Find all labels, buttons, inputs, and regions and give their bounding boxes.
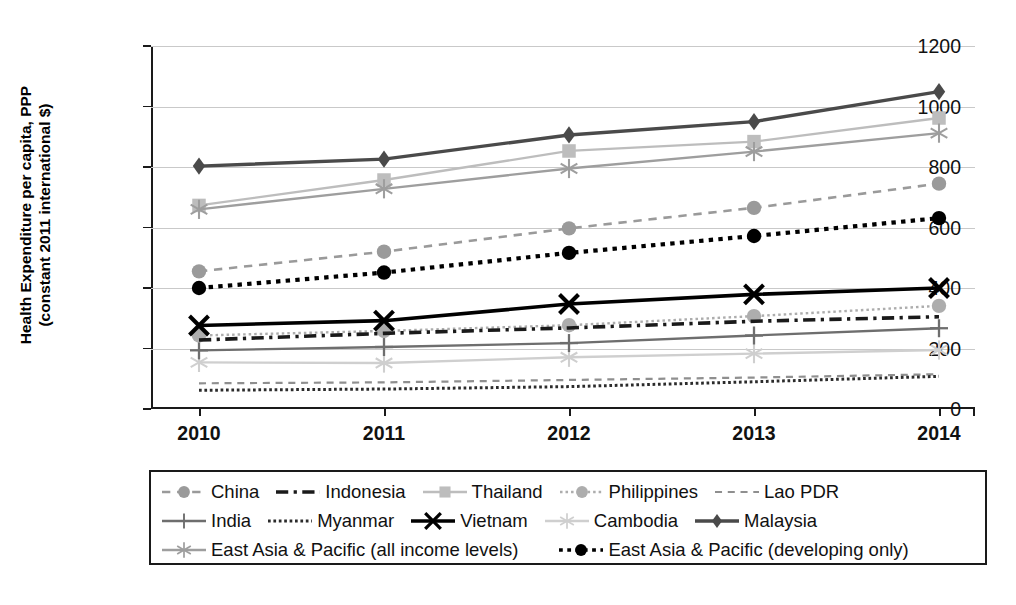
legend-row: IndiaMyanmarVietnamCambodiaMalaysia	[151, 506, 985, 535]
legend-label: Lao PDR	[764, 481, 839, 503]
y-tick-mark	[143, 348, 151, 350]
series-line-lao_pdr	[199, 374, 939, 383]
legend-symbol-china	[161, 482, 207, 502]
legend-label: Cambodia	[594, 510, 678, 532]
data-point-marker	[747, 229, 761, 243]
chart-page: Health Expenditure per capita, PPP (cons…	[0, 0, 1016, 605]
legend-symbol-eap_all	[161, 540, 207, 560]
y-tick-mark	[143, 166, 151, 168]
data-point-marker	[930, 319, 948, 337]
legend-symbol-malaysia	[694, 511, 740, 531]
legend-symbol-lao_pdr	[714, 482, 760, 502]
x-tick-label: 2010	[177, 422, 220, 445]
data-point-marker	[932, 211, 946, 225]
y-axis-title: Health Expenditure per capita, PPP (cons…	[0, 0, 70, 430]
legend-symbol-myanmar	[267, 511, 313, 531]
data-point-marker	[178, 486, 190, 498]
legend-symbol-cambodia	[544, 511, 590, 531]
legend-item-eap_all[interactable]: East Asia & Pacific (all income levels)	[161, 539, 518, 561]
legend-label: Indonesia	[325, 481, 405, 503]
legend-symbol-indonesia	[275, 482, 321, 502]
data-point-marker	[562, 246, 576, 260]
legend-symbol-philippines	[559, 482, 605, 502]
series-line-myanmar	[199, 376, 939, 390]
data-point-marker	[378, 151, 390, 168]
data-point-marker	[576, 486, 588, 498]
y-tick-mark	[143, 45, 151, 47]
data-point-marker	[712, 513, 722, 527]
legend-symbol-india	[161, 511, 207, 531]
data-point-marker	[562, 318, 576, 332]
data-point-marker	[932, 111, 946, 125]
data-point-marker	[748, 113, 760, 130]
data-point-marker	[192, 264, 206, 278]
legend-label: China	[211, 481, 259, 503]
legend-row: East Asia & Pacific (all income levels)E…	[151, 535, 985, 564]
legend-item-china[interactable]: China	[161, 481, 259, 503]
data-point-marker	[377, 265, 391, 279]
legend-symbol-eap_dev	[558, 540, 604, 560]
y-tick-mark	[143, 408, 151, 410]
legend-item-indonesia[interactable]: Indonesia	[275, 481, 405, 503]
x-tick-label: 2011	[363, 422, 405, 445]
data-point-marker	[745, 326, 763, 344]
data-point-marker	[177, 513, 192, 528]
data-point-marker	[439, 486, 450, 497]
data-point-marker	[576, 544, 588, 556]
legend-item-eap_dev[interactable]: East Asia & Pacific (developing only)	[558, 539, 908, 561]
data-point-marker	[562, 144, 576, 158]
data-point-marker	[560, 334, 578, 352]
legend-label: East Asia & Pacific (all income levels)	[211, 539, 518, 561]
legend-row: ChinaIndonesiaThailandPhilippinesLao PDR	[151, 477, 985, 506]
legend-symbol-vietnam	[410, 511, 456, 531]
data-point-marker	[933, 83, 945, 100]
legend-label: Myanmar	[317, 510, 394, 532]
data-point-marker	[747, 201, 761, 215]
x-tick-label: 2013	[732, 422, 775, 445]
y-axis-title-line2: (constant 2011 international $)	[35, 86, 54, 344]
legend-label: Malaysia	[744, 510, 817, 532]
legend-item-myanmar[interactable]: Myanmar	[267, 510, 394, 532]
data-point-marker	[932, 299, 946, 313]
chart-legend: ChinaIndonesiaThailandPhilippinesLao PDR…	[149, 470, 987, 565]
legend-item-thailand[interactable]: Thailand	[422, 481, 543, 503]
legend-item-cambodia[interactable]: Cambodia	[544, 510, 678, 532]
data-point-marker	[193, 157, 205, 174]
data-point-marker	[375, 338, 393, 356]
legend-item-malaysia[interactable]: Malaysia	[694, 510, 817, 532]
y-tick-mark	[143, 106, 151, 108]
legend-label: India	[211, 510, 251, 532]
legend-item-india[interactable]: India	[161, 510, 251, 532]
legend-label: Philippines	[609, 481, 698, 503]
legend-symbol-thailand	[422, 482, 468, 502]
data-point-marker	[192, 281, 206, 295]
y-tick-mark	[143, 227, 151, 229]
legend-item-philippines[interactable]: Philippines	[559, 481, 698, 503]
data-point-marker	[932, 176, 946, 190]
plot-area: 020040060080010001200 201020112012201320…	[151, 46, 975, 409]
legend-label: Thailand	[472, 481, 543, 503]
y-axis-title-line1: Health Expenditure per capita, PPP	[17, 86, 34, 344]
series-lines	[151, 46, 975, 409]
data-point-marker	[190, 341, 208, 359]
legend-item-lao_pdr[interactable]: Lao PDR	[714, 481, 839, 503]
data-point-marker	[562, 221, 576, 235]
y-tick-mark	[143, 287, 151, 289]
legend-label: East Asia & Pacific (developing only)	[608, 539, 908, 561]
legend-item-vietnam[interactable]: Vietnam	[410, 510, 528, 532]
data-point-marker	[563, 126, 575, 143]
x-tick-label: 2012	[547, 422, 590, 445]
data-point-marker	[377, 245, 391, 259]
x-tick-label: 2014	[917, 422, 960, 445]
legend-label: Vietnam	[460, 510, 528, 532]
